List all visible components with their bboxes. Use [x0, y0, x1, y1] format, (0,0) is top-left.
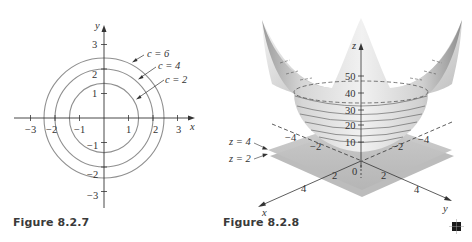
curve-label-c6: c = 6: [147, 48, 170, 59]
x-tick-label: −4: [418, 134, 430, 145]
figure-caption: Figure 8.2.7: [13, 216, 89, 229]
figure-caption: Figure 8.2.8: [223, 216, 299, 229]
curve-label-c2: c = 2: [165, 74, 188, 85]
z-tick-label: 40: [345, 88, 356, 99]
x-tick-label: −2: [46, 124, 57, 135]
y-tick-label: 2: [92, 69, 97, 80]
level-curves-plot: −3 −2 −1 1 2 3 x 3 2 1 −1 −2 −3 y c = 6 …: [0, 0, 210, 242]
curve-label-c4: c = 4: [158, 60, 181, 71]
figure-level-curves: −3 −2 −1 1 2 3 x 3 2 1 −1 −2 −3 y c = 6 …: [0, 0, 210, 242]
z-tick-label: 10: [345, 137, 356, 148]
y-tick-label: 1: [92, 88, 97, 99]
x-tick-label: 4: [301, 183, 307, 194]
z-tick-label: 50: [345, 71, 356, 82]
plane-label-z4: z = 4: [228, 136, 251, 147]
y-axis-label: y: [442, 203, 448, 214]
y-tick-label: 3: [92, 39, 97, 50]
surface-3d-plot: z 50 40 30 20 10 2 4 −2 −4 2 4 −2 −4 0 x…: [210, 0, 472, 242]
x-tick-label: 2: [332, 170, 337, 181]
plane-label-z2: z = 2: [228, 153, 251, 164]
y-axis-label: y: [94, 20, 100, 31]
x-tick-label: 2: [153, 124, 158, 135]
z-tick-label: 30: [345, 105, 356, 116]
figure-surface-3d: z 50 40 30 20 10 2 4 −2 −4 2 4 −2 −4 0 x…: [210, 0, 472, 242]
x-axis-label: x: [189, 121, 195, 132]
x-axis-arrow-icon: [188, 116, 195, 121]
y-tick-label: −2: [87, 169, 98, 180]
y-axis-arrow-icon: [102, 25, 107, 32]
y-axis-arrow-icon: [444, 196, 452, 201]
y-tick-label: 2: [381, 170, 386, 181]
y-tick-label: −2: [310, 141, 321, 152]
z-tick-label: 20: [345, 120, 356, 131]
x-tick-label: −2: [392, 141, 403, 152]
y-tick-label: −4: [285, 132, 297, 143]
x-tick-label: −3: [25, 124, 36, 135]
y-tick-label: −3: [87, 190, 98, 201]
x-tick-label: 1: [126, 124, 131, 135]
y-tick-label: 4: [414, 184, 420, 195]
z-axis-label: z: [351, 40, 356, 51]
origin-label: 0: [352, 166, 357, 177]
x-tick-label: −1: [74, 124, 85, 135]
y-tick-label: −1: [87, 140, 98, 151]
x-tick-label: 3: [176, 124, 181, 135]
